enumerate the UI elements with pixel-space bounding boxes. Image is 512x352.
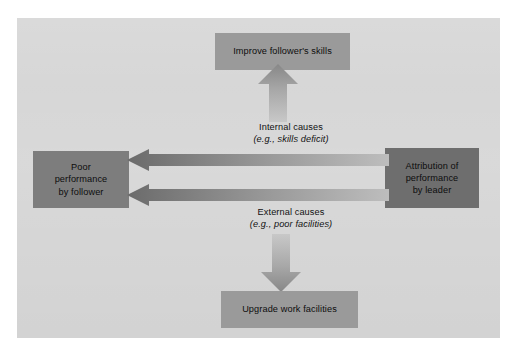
node-upgrade-work-facilities: Upgrade work facilities xyxy=(221,291,358,328)
node-right-line3: by leader xyxy=(406,184,459,196)
node-bottom-label: Upgrade work facilities xyxy=(242,303,337,315)
node-top-label: Improve follower's skills xyxy=(233,45,332,57)
caption-internal-line2: (e.g., skills deficit) xyxy=(206,133,376,145)
node-attribution-of-performance-by-leader: Attribution of performance by leader xyxy=(385,148,479,208)
node-poor-performance-by-follower: Poor performance by follower xyxy=(33,151,129,208)
node-right-line2: performance xyxy=(406,172,459,184)
node-right-line1: Attribution of xyxy=(406,160,459,172)
node-left-line3: by follower xyxy=(55,186,108,198)
node-left-line2: performance xyxy=(55,173,108,185)
caption-external-line1: External causes xyxy=(206,206,376,218)
caption-external-causes: External causes (e.g., poor facilities) xyxy=(206,206,376,231)
caption-internal-causes: Internal causes (e.g., skills deficit) xyxy=(206,121,376,146)
node-left-line1: Poor xyxy=(55,161,108,173)
caption-external-line2: (e.g., poor facilities) xyxy=(206,218,376,230)
diagram-figure: Improve follower's skills Internal cause… xyxy=(0,0,512,352)
caption-internal-line1: Internal causes xyxy=(206,121,376,133)
node-improve-follower-skills: Improve follower's skills xyxy=(215,33,350,70)
